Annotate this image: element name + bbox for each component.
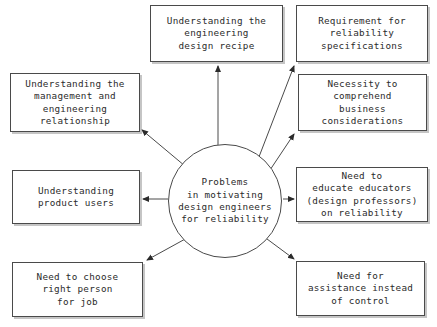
connector-to-assistance-instead-of-control (263, 236, 294, 259)
node-label: Understanding the management and enginee… (25, 78, 124, 128)
diagram-canvas: Understanding the engineering design rec… (0, 0, 437, 327)
node-label: Necessity to comprehend business conside… (322, 78, 404, 128)
node-label: Understanding product users (38, 185, 114, 210)
node-label: Need for assistance instead of control (308, 270, 413, 307)
connector-to-right-person-for-job (147, 238, 187, 260)
node-management-engineering-relationship[interactable]: Understanding the management and enginee… (10, 73, 140, 132)
node-label: Need to educate educators (design profes… (306, 170, 417, 220)
node-right-person-for-job[interactable]: Need to choose right person for job (12, 262, 143, 317)
node-engineering-design-recipe[interactable]: Understanding the engineering design rec… (150, 5, 283, 62)
hub-node-problems-motivating-design-engineers[interactable]: Problems in motivating design engineers … (168, 144, 282, 258)
hub-label: Problems in motivating design engineers … (169, 176, 281, 226)
node-assistance-instead-of-control[interactable]: Need for assistance instead of control (296, 261, 425, 316)
node-business-considerations[interactable]: Necessity to comprehend business conside… (298, 74, 427, 131)
node-reliability-specifications[interactable]: Requirement for reliability specificatio… (296, 5, 428, 62)
connector-to-reliability-specifications (257, 66, 294, 162)
node-label: Requirement for reliability specificatio… (318, 15, 406, 52)
node-educate-educators[interactable]: Need to educate educators (design profes… (296, 167, 428, 222)
connector-to-management-engineering-relationship (142, 130, 185, 166)
node-label: Understanding the engineering design rec… (167, 15, 266, 52)
node-product-users[interactable]: Understanding product users (12, 170, 140, 224)
node-label: Need to choose right person for job (37, 271, 119, 308)
